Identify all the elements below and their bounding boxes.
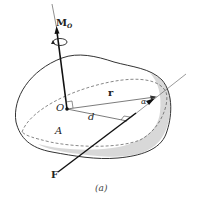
body-shaded-band: [38, 73, 170, 157]
distance-line-d: [67, 109, 127, 121]
force-arrowhead: [146, 98, 155, 105]
r-label: r: [108, 88, 113, 98]
a-label: A: [55, 126, 62, 136]
moment-label: MO: [56, 18, 72, 29]
alpha-label: α: [141, 98, 146, 106]
rotation-icon: [53, 39, 67, 46]
dashed-plane-curve: [22, 79, 167, 146]
origin-label: O: [56, 103, 64, 113]
origin-point: [65, 107, 69, 111]
diagram-drawing: [0, 0, 204, 208]
figure-caption: (a): [95, 184, 107, 193]
rotation-arrowhead: [51, 40, 55, 44]
d-label: d: [88, 112, 94, 122]
moment-vector: [57, 32, 67, 109]
force-label: F: [51, 170, 58, 180]
force-vector: [58, 113, 136, 172]
moment-diagram: MO O r α d A F (a): [0, 0, 204, 208]
